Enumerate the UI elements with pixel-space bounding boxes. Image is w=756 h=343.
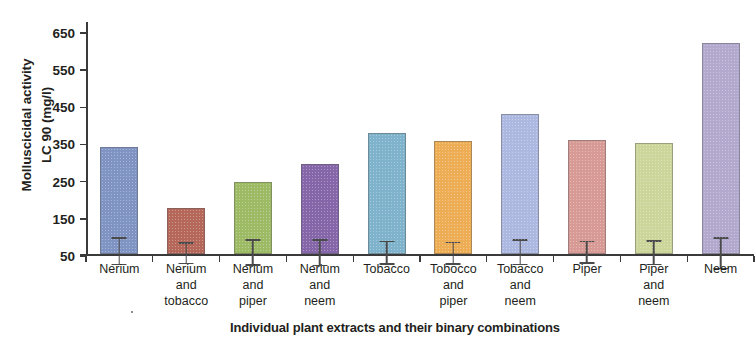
x-axis-tick-label: Nerium and piper [220,262,287,310]
error-bar-cap-upper [179,242,194,244]
bar-chart-figure: Molluscicidal activity LC 90 (mg/l) 5015… [0,0,756,343]
error-bar [179,242,194,264]
error-bar-cap-upper [379,241,394,243]
scan-artifact-dot [131,311,133,313]
y-axis-tick-label: 650 [52,25,75,40]
bar [501,114,539,254]
y-axis-tick-label: 250 [52,174,75,189]
bar [100,147,138,255]
x-axis-title: Individual plant extracts and their bina… [0,320,756,335]
error-bar-cap-upper [112,237,127,239]
bar-group [487,20,554,254]
error-bar-stem [586,241,588,264]
y-axis-tick-label: 50 [60,248,75,263]
x-axis-tick-label: Neem [687,262,754,278]
error-bar-cap-upper [245,239,260,241]
y-axis-tick-label: 450 [52,100,75,115]
error-bar-cap-upper [713,237,728,239]
error-bar-cap-upper [646,240,661,242]
bar-group [353,20,420,254]
bar [301,164,339,254]
x-axis-tick-label: Nerium and tobacco [153,262,220,310]
bar-group [153,20,220,254]
error-bar [379,241,394,265]
x-axis-tick-label: Tobocco and piper [420,262,487,310]
bar [635,143,673,255]
bar-group [420,20,487,254]
x-axis-tick-label: Nerium [86,262,153,278]
bar [702,43,740,255]
x-axis-title-text: Individual plant extracts and their bina… [230,320,560,335]
error-bar-stem [386,241,388,265]
bar [434,141,472,255]
x-axis-tick-label: Piper and neem [620,262,687,310]
x-axis-tick-label: Tobacco [353,262,420,278]
error-bar-cap-upper [513,239,528,241]
error-bar-cap-upper [312,239,327,241]
y-axis-tick-label: 550 [52,63,75,78]
bar [234,182,272,254]
bar-group [286,20,353,254]
bar [568,140,606,254]
bar-group [620,20,687,254]
x-axis-tick-label: Nerium and neem [286,262,353,310]
bar-group [554,20,621,254]
bar [167,208,205,254]
error-bar [579,241,594,264]
y-axis-tick-label: 150 [52,211,75,226]
bar [368,133,406,255]
bar-group [86,20,153,254]
plot-area: 50150250350450550650 [86,22,754,256]
error-bar-stem [185,242,187,264]
x-axis-tick-label: Tobacco and neem [487,262,554,310]
bar-group [220,20,287,254]
bar-group [687,20,754,254]
error-bar-cap-upper [579,241,594,243]
y-axis-tick-label: 350 [52,137,75,152]
x-axis-tick-label: Piper [554,262,621,278]
error-bar-cap-upper [446,242,461,244]
y-axis-title-line-1: Molluscicidal activity [17,59,37,192]
